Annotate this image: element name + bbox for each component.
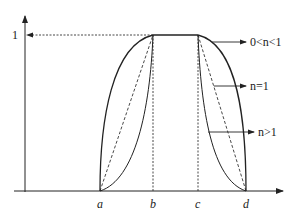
- linear-rise: [100, 35, 153, 191]
- x-label-d: d: [243, 197, 250, 211]
- label-linear: n=1: [250, 79, 269, 93]
- label-concave: 0<n<1: [250, 35, 282, 49]
- x-label-c: c: [195, 197, 201, 211]
- y-tick-one: 1: [12, 28, 18, 42]
- x-label-a: a: [97, 197, 103, 211]
- trapezoid-membership-diagram: 1 a b c d 0<n<1 n=1 n>1: [0, 0, 301, 218]
- x-label-b: b: [150, 197, 156, 211]
- label-convex: n>1: [258, 125, 277, 139]
